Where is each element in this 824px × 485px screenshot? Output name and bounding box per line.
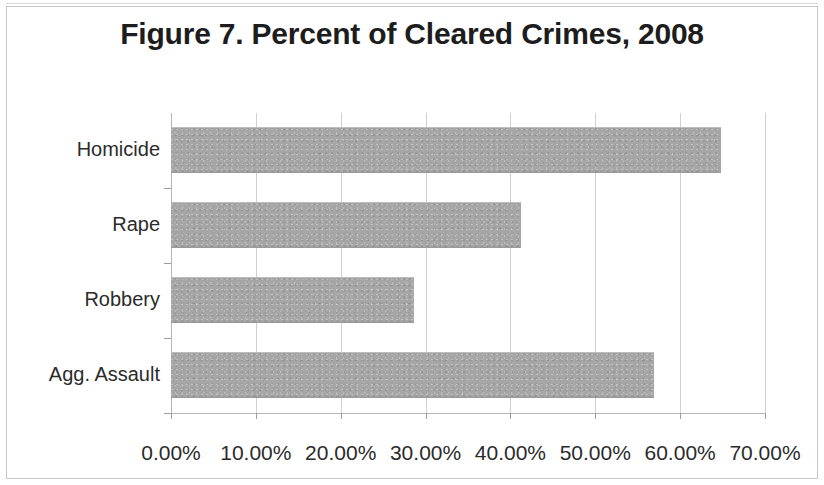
y-axis-tick: [164, 188, 171, 189]
x-axis-tick: [765, 413, 766, 419]
x-axis-tick: [341, 413, 342, 419]
bar-row: [171, 188, 765, 263]
bar-agg-assault[interactable]: [171, 352, 654, 398]
bar-row: [171, 263, 765, 338]
x-axis-tick: [595, 413, 596, 419]
x-axis-tick-label: 70.00%: [710, 441, 820, 465]
plot-area: [171, 113, 765, 413]
y-axis-category-label: Agg. Assault: [0, 363, 160, 386]
y-axis-category-label: Homicide: [0, 138, 160, 161]
y-axis-category-label: Rape: [0, 213, 160, 236]
x-axis-tick: [510, 413, 511, 419]
bar-homicide[interactable]: [171, 127, 721, 173]
bar-robbery[interactable]: [171, 277, 414, 323]
x-axis-tick-labels: 0.00%10.00%20.00%30.00%40.00%50.00%60.00…: [171, 441, 765, 471]
y-axis-tick: [164, 263, 171, 264]
gridline: [765, 113, 766, 413]
x-axis-tick: [426, 413, 427, 419]
y-axis-tick: [164, 338, 171, 339]
chart-title: Figure 7. Percent of Cleared Crimes, 200…: [0, 17, 824, 51]
figure-frame-top-rule: [6, 3, 818, 4]
bar-row: [171, 113, 765, 188]
x-axis-tick: [680, 413, 681, 419]
x-axis-tick: [256, 413, 257, 419]
y-axis-tick: [164, 413, 171, 414]
figure-container: Figure 7. Percent of Cleared Crimes, 200…: [0, 0, 824, 485]
x-axis-line: [171, 413, 765, 414]
y-axis-category-label: Robbery: [0, 288, 160, 311]
y-axis-category-labels: HomicideRapeRobberyAgg. Assault: [0, 113, 160, 413]
bar-rape[interactable]: [171, 202, 521, 248]
bar-row: [171, 338, 765, 413]
x-axis-tick: [171, 413, 172, 419]
